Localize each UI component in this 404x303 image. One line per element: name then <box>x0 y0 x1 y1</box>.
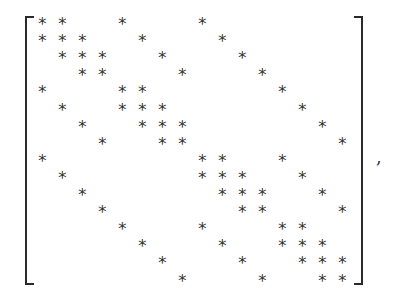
nonzero-entry: ∗ <box>52 46 72 63</box>
nonzero-entry: ∗ <box>272 149 292 166</box>
nonzero-entry: ∗ <box>312 251 332 268</box>
nonzero-entry: ∗ <box>92 132 112 149</box>
nonzero-entry: ∗ <box>312 115 332 132</box>
nonzero-entry: ∗ <box>252 200 272 217</box>
nonzero-entry: ∗ <box>112 217 132 234</box>
nonzero-entry: ∗ <box>292 98 312 115</box>
nonzero-entry: ∗ <box>152 251 172 268</box>
left-bracket <box>25 16 27 285</box>
right-bracket-top <box>354 16 363 18</box>
right-bracket-bottom <box>354 283 363 285</box>
nonzero-entry: ∗ <box>52 166 72 183</box>
nonzero-entry: ∗ <box>332 269 352 286</box>
nonzero-entry: ∗ <box>332 200 352 217</box>
nonzero-entry: ∗ <box>212 183 232 200</box>
nonzero-entry: ∗ <box>272 80 292 97</box>
nonzero-entry: ∗ <box>112 12 132 29</box>
nonzero-entry: ∗ <box>132 98 152 115</box>
nonzero-entry: ∗ <box>132 29 152 46</box>
nonzero-entry: ∗ <box>292 251 312 268</box>
nonzero-entry: ∗ <box>152 98 172 115</box>
nonzero-entry: ∗ <box>332 251 352 268</box>
nonzero-entry: ∗ <box>112 98 132 115</box>
nonzero-entry: ∗ <box>92 200 112 217</box>
nonzero-entry: ∗ <box>132 115 152 132</box>
nonzero-entry: ∗ <box>32 80 52 97</box>
nonzero-entry: ∗ <box>232 46 252 63</box>
nonzero-entry: ∗ <box>152 132 172 149</box>
nonzero-entry: ∗ <box>252 63 272 80</box>
nonzero-entry: ∗ <box>152 46 172 63</box>
nonzero-entry: ∗ <box>132 234 152 251</box>
nonzero-entry: ∗ <box>212 234 232 251</box>
nonzero-entry: ∗ <box>132 80 152 97</box>
sparsity-pattern-matrix: ∗∗∗∗∗∗∗∗∗∗∗∗∗∗∗∗∗∗∗∗∗∗∗∗∗∗∗∗∗∗∗∗∗∗∗∗∗∗∗∗… <box>0 0 404 303</box>
nonzero-entry: ∗ <box>172 63 192 80</box>
nonzero-entry: ∗ <box>32 149 52 166</box>
nonzero-entry: ∗ <box>312 183 332 200</box>
nonzero-entry: ∗ <box>252 269 272 286</box>
nonzero-entry: ∗ <box>172 132 192 149</box>
nonzero-entry: ∗ <box>232 200 252 217</box>
nonzero-entry: ∗ <box>332 132 352 149</box>
nonzero-entry: ∗ <box>272 234 292 251</box>
nonzero-entry: ∗ <box>52 98 72 115</box>
nonzero-entry: ∗ <box>72 115 92 132</box>
nonzero-entry: ∗ <box>92 63 112 80</box>
nonzero-entry: ∗ <box>112 80 132 97</box>
nonzero-entry: ∗ <box>172 269 192 286</box>
left-bracket-bottom <box>25 283 34 285</box>
trailing-comma: , <box>376 146 382 167</box>
nonzero-entry: ∗ <box>212 29 232 46</box>
nonzero-entry: ∗ <box>232 251 252 268</box>
nonzero-entry: ∗ <box>192 217 212 234</box>
nonzero-entry: ∗ <box>192 166 212 183</box>
nonzero-entry: ∗ <box>312 269 332 286</box>
right-bracket <box>361 16 363 285</box>
nonzero-entry: ∗ <box>72 183 92 200</box>
nonzero-entry: ∗ <box>72 63 92 80</box>
nonzero-entry: ∗ <box>292 166 312 183</box>
nonzero-entry: ∗ <box>32 29 52 46</box>
nonzero-entry: ∗ <box>192 12 212 29</box>
